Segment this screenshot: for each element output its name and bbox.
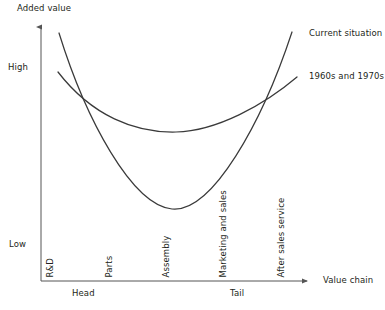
- x-tick-marketing-and-sales: Marketing and sales: [219, 190, 228, 277]
- smiling-curve-chart: Added value Value chain High Low R&D Par…: [0, 0, 385, 310]
- legend-label-current-situation: Current situation: [309, 29, 382, 38]
- curve-current-situation: [59, 32, 292, 209]
- x-tick-assembly: Assembly: [162, 235, 171, 277]
- x-tick-rd: R&D: [46, 258, 55, 277]
- y-tick-high: High: [8, 63, 28, 72]
- y-axis-label: Added value: [17, 4, 71, 13]
- legend-label-1960s-1970s: 1960s and 1970s: [309, 72, 384, 81]
- chart-canvas: [0, 0, 385, 310]
- y-tick-low: Low: [9, 240, 26, 249]
- annotation-tail: Tail: [230, 289, 244, 298]
- x-tick-parts: Parts: [105, 255, 114, 277]
- x-tick-after-sales-service: After sales service: [277, 197, 286, 277]
- x-axis-label: Value chain: [323, 276, 373, 285]
- annotation-head: Head: [72, 289, 95, 298]
